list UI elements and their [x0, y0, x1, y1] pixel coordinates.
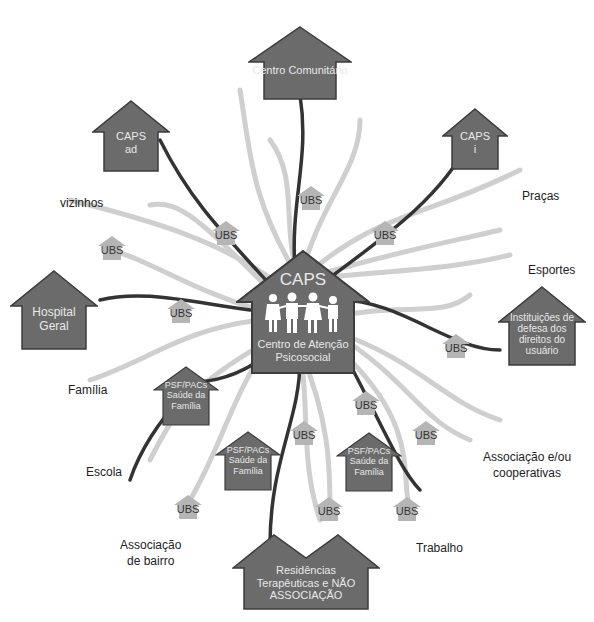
house-label: Geral	[10, 320, 98, 334]
house-label: i	[442, 143, 508, 156]
ubs-label: UBS	[308, 505, 350, 517]
label-line: Associação e/ou	[483, 450, 571, 466]
house-label: Instituições de	[498, 312, 586, 323]
ubs-marker: UBS	[411, 420, 441, 446]
house-instituicoes-defesa: Instituições de defesa dos direitos do u…	[498, 286, 586, 366]
ubs-label: UBS	[283, 429, 325, 441]
house-label: Família	[336, 467, 402, 477]
ubs-marker: UBS	[351, 390, 381, 416]
center-title: CAPS	[236, 270, 370, 290]
label-escola: Escola	[86, 465, 122, 481]
ubs-marker: UBS	[211, 220, 241, 246]
ubs-marker: UBS	[392, 496, 422, 522]
house-label: Família	[153, 401, 219, 411]
house-label: CAPS	[92, 130, 170, 143]
ubs-label: UBS	[205, 229, 247, 241]
label-line: Associação	[120, 538, 181, 554]
house-hospital-geral: Hospital Geral	[10, 270, 98, 350]
ubs-marker: UBS	[173, 494, 203, 520]
house-caps-i: CAPS i	[442, 108, 508, 170]
ubs-label: UBS	[386, 505, 428, 517]
ubs-label: UBS	[345, 399, 387, 411]
house-residencias: Residências Terapêuticas e NÃO ASSOCIAÇÃ…	[232, 534, 380, 610]
label-trabalho: Trabalho	[416, 541, 463, 557]
house-label: usuário	[498, 345, 586, 356]
label-associacao-bairro: Associação de bairro	[120, 538, 181, 569]
house-label: ASSOCIAÇÃO	[232, 589, 380, 602]
house-icon	[248, 26, 352, 100]
house-caps-ad: CAPS ad	[92, 100, 170, 172]
label-line: de bairro	[120, 554, 181, 570]
house-label: Residências	[232, 564, 380, 577]
house-caps-center: CAPS Centro de Atenção Psicosocial	[236, 250, 370, 374]
ubs-label: UBS	[91, 244, 133, 256]
ubs-marker: UBS	[97, 235, 127, 261]
house-label: Saúde da	[215, 455, 281, 465]
house-label: Família	[215, 466, 281, 476]
ubs-marker: UBS	[441, 333, 471, 359]
house-label: Terapêuticas e NÃO	[232, 577, 380, 590]
center-subtitle: Centro de Atenção Psicosocial	[236, 338, 370, 363]
family-icon	[263, 292, 343, 334]
ubs-label: UBS	[405, 429, 447, 441]
ubs-label: UBS	[160, 307, 202, 319]
house-psf-1: PSF/PACs Saúde da Família	[153, 366, 219, 426]
house-label: Saúde da	[153, 390, 219, 400]
house-label: CAPS	[442, 130, 508, 143]
ubs-marker: UBS	[289, 420, 319, 446]
label-line: cooperativas	[483, 466, 571, 482]
house-centro-comunitario: Centro Comunitário	[248, 26, 352, 100]
house-label: Centro Comunitário	[248, 64, 352, 77]
ubs-marker: UBS	[314, 496, 344, 522]
ubs-marker: UBS	[370, 220, 400, 246]
ubs-label: UBS	[364, 229, 406, 241]
label-familia: Família	[68, 383, 107, 399]
label-vizinhos: vizinhos	[60, 196, 103, 212]
house-label: PSF/PACs	[215, 445, 281, 455]
house-label: Saúde da	[336, 456, 402, 466]
house-label: PSF/PACs	[336, 446, 402, 456]
label-esportes: Esportes	[528, 263, 575, 279]
ubs-label: UBS	[290, 194, 332, 206]
house-psf-2: PSF/PACs Saúde da Família	[215, 431, 281, 491]
house-label: ad	[92, 143, 170, 156]
label-pracas: Praças	[522, 189, 559, 205]
label-associacao-cooperativas: Associação e/ou cooperativas	[483, 450, 571, 481]
ubs-label: UBS	[435, 342, 477, 354]
ubs-marker: UBS	[296, 185, 326, 211]
house-label: direitos do	[498, 334, 586, 345]
ubs-marker: UBS	[166, 298, 196, 324]
house-label: PSF/PACs	[153, 380, 219, 390]
house-label: defesa dos	[498, 323, 586, 334]
house-psf-3: PSF/PACs Saúde da Família	[336, 432, 402, 492]
house-label: Hospital	[10, 306, 98, 320]
ubs-label: UBS	[167, 503, 209, 515]
